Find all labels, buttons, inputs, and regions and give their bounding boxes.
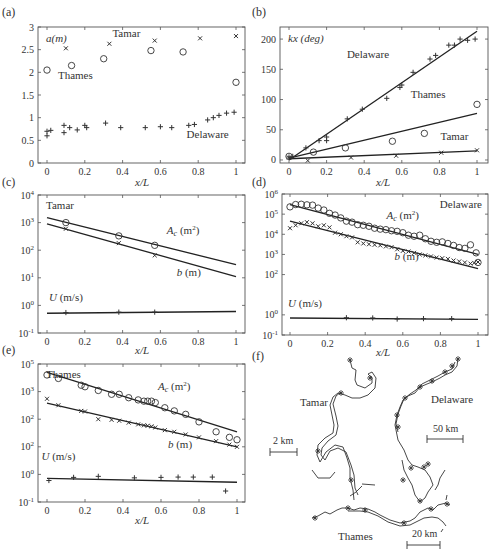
estuary-figure: 00.20.40.60.8100.511.522.53a(m)TamarTham… xyxy=(0,0,501,558)
x-tick-label: 0 xyxy=(45,336,50,347)
panel-label-c: (c) xyxy=(2,175,15,189)
x-tick-label: 0.8 xyxy=(192,166,205,177)
fit-line-ac xyxy=(47,372,237,431)
fit-line-b xyxy=(47,403,237,447)
annotation: b (m) xyxy=(394,250,418,263)
svg-text:10-1: 10-1 xyxy=(18,496,34,508)
svg-text:102: 102 xyxy=(21,413,35,425)
x-tick-label: 0.8 xyxy=(193,505,206,516)
x-tick-label: 0.2 xyxy=(79,336,92,347)
series-ac xyxy=(44,372,240,443)
annotation: Tamar xyxy=(112,27,140,39)
x-tick-label: 0.2 xyxy=(79,505,92,516)
y-axis-label: a(m) xyxy=(46,32,67,45)
panel-e-thames-geometry: 00.20.40.60.8110-1100102102103105ThamesA… xyxy=(18,358,245,517)
svg-text:100: 100 xyxy=(21,468,35,480)
x-tick-label: 0.2 xyxy=(321,338,334,349)
svg-text:200: 200 xyxy=(261,34,276,45)
svg-text:150: 150 xyxy=(261,64,276,75)
station-markers xyxy=(312,356,461,526)
svg-text:1.5: 1.5 xyxy=(22,90,35,101)
x-tick-label: 1 xyxy=(235,505,240,516)
svg-text:3: 3 xyxy=(29,22,34,33)
svg-text:106: 106 xyxy=(265,188,279,200)
svg-text:105: 105 xyxy=(21,358,35,370)
annotation: b (m) xyxy=(168,438,192,451)
x-tick-label: 0 xyxy=(45,505,50,516)
panel-a-xlabel: x/L xyxy=(134,176,149,188)
x-tick-label: 0.6 xyxy=(396,166,409,177)
svg-text:101: 101 xyxy=(21,271,35,283)
svg-text:103: 103 xyxy=(21,385,35,397)
fit-line-b xyxy=(47,224,236,277)
y-axis-label: kx (deg) xyxy=(288,32,324,45)
x-tick-label: 0.8 xyxy=(433,166,446,177)
svg-text:2: 2 xyxy=(29,67,34,78)
panel-label-e: (e) xyxy=(2,343,15,357)
x-tick-label: 0 xyxy=(288,338,293,349)
delaware-label: Delaware xyxy=(431,393,473,405)
svg-text:102: 102 xyxy=(21,244,35,256)
panel-d-xlabel: x/L xyxy=(375,346,390,358)
svg-text:102: 102 xyxy=(21,440,35,452)
x-tick-label: 1 xyxy=(234,336,239,347)
x-tick-label: 0.4 xyxy=(117,505,130,516)
x-tick-label: 0.6 xyxy=(397,338,410,349)
plot-frame xyxy=(282,194,488,335)
scale-bar-delaware: 50 km xyxy=(427,423,463,443)
plot-frame xyxy=(38,27,245,163)
x-tick-label: 0.6 xyxy=(154,166,167,177)
svg-text:1: 1 xyxy=(29,112,34,123)
fit-line-ac xyxy=(47,218,236,265)
x-tick-label: 0 xyxy=(45,166,50,177)
annotation: Tamar xyxy=(440,130,468,142)
x-tick-label: 0.2 xyxy=(79,166,92,177)
scale-bar-thames: 20 km xyxy=(407,528,440,549)
x-tick-label: 0.6 xyxy=(154,336,167,347)
svg-text:100: 100 xyxy=(265,308,279,320)
panel-title: Delaware xyxy=(440,198,482,210)
svg-text:104: 104 xyxy=(21,189,35,201)
x-tick-label: 0.8 xyxy=(192,336,205,347)
annotation: Ac (m2) xyxy=(166,224,200,238)
panel-label-f: (f) xyxy=(252,349,264,363)
panel-c-tamar-geometry: 00.20.40.60.8110-1100101102103104TamarAc… xyxy=(18,189,245,348)
svg-text:103: 103 xyxy=(265,248,279,260)
x-tick-label: 0.4 xyxy=(358,166,371,177)
svg-text:10-1: 10-1 xyxy=(262,329,278,341)
tamar-label: Tamar xyxy=(300,396,328,408)
thames-label: Thames xyxy=(338,530,373,542)
svg-text:20 km: 20 km xyxy=(412,528,438,539)
svg-text:105: 105 xyxy=(265,208,279,220)
svg-text:100: 100 xyxy=(261,94,276,105)
x-tick-label: 0.6 xyxy=(155,505,168,516)
svg-text:10-1: 10-1 xyxy=(18,327,34,339)
annotation: Thames xyxy=(58,69,93,81)
x-tick-label: 1 xyxy=(475,166,480,177)
panel-d-delaware-geometry: 00.20.40.60.8110-1100102103104105106Dela… xyxy=(262,188,488,350)
tamar-river-outline: Tamar xyxy=(300,360,376,500)
svg-text:2.5: 2.5 xyxy=(22,44,35,55)
svg-text:0.5: 0.5 xyxy=(22,135,35,146)
panel-label-a: (a) xyxy=(2,5,15,19)
svg-text:50: 50 xyxy=(266,124,276,135)
svg-text:50 km: 50 km xyxy=(433,423,459,434)
x-tick-label: 0.2 xyxy=(320,166,333,177)
fit-line-u xyxy=(47,312,236,314)
fit-line-ac xyxy=(290,205,478,255)
svg-text:104: 104 xyxy=(265,228,279,240)
annotation: Ac (m2) xyxy=(386,209,420,223)
annotation: U (m/s) xyxy=(41,450,75,463)
annotation: U (m/s) xyxy=(49,291,83,304)
svg-text:103: 103 xyxy=(21,216,35,228)
panel-label-d: (d) xyxy=(252,175,266,189)
annotation: b (m) xyxy=(177,266,201,279)
x-tick-label: 0.4 xyxy=(116,336,129,347)
panel-a-tidal-amplitude: 00.20.40.60.8100.511.522.53a(m)TamarTham… xyxy=(22,22,246,178)
svg-text:2 km: 2 km xyxy=(273,435,294,446)
series-u xyxy=(46,474,228,494)
svg-text:102: 102 xyxy=(265,268,279,280)
x-tick-label: 1 xyxy=(234,166,239,177)
panel-f-estuary-maps: Tamar Delaware Thames 2 km 50 km 20 km xyxy=(270,356,473,549)
x-tick-label: 0 xyxy=(287,166,292,177)
